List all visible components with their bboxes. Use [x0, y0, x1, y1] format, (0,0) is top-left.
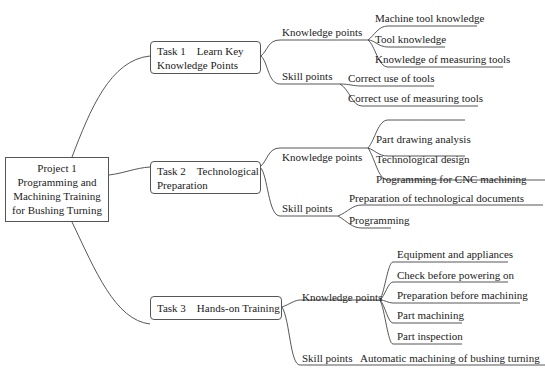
task-2-line-2: Preparation: [157, 178, 254, 192]
task-2-knowledge-point: Programming for CNC machining: [376, 173, 527, 186]
task-3-knowledge-point: Preparation before machining: [397, 289, 528, 302]
task-1-knowledge-point: Machine tool knowledge: [375, 12, 484, 25]
task-3-skill-point: Automatic machining of bushing turning: [360, 352, 540, 365]
task-1-node: Task 1 Learn Key Knowledge Points: [150, 41, 261, 74]
task-3-knowledge-point: Check before powering on: [397, 269, 514, 282]
root-line-1: Project 1: [6, 161, 108, 175]
task-1-line-1: Task 1 Learn Key: [157, 44, 254, 58]
task-3-skill-label: Skill points: [302, 352, 352, 365]
root-line-2: Programming and: [6, 175, 108, 189]
task-2-skill-point: Preparation of technological documents: [349, 192, 524, 205]
task-2-node: Task 2 Technological Preparation: [150, 161, 261, 194]
task-1-knowledge-point: Tool knowledge: [375, 33, 446, 46]
task-3-knowledge-point: Part inspection: [397, 330, 463, 343]
task-1-skill-point: Correct use of measuring tools: [348, 92, 483, 105]
task-2-knowledge-label: Knowledge points: [282, 151, 362, 164]
task-1-knowledge-label: Knowledge points: [282, 26, 362, 39]
root-node: Project 1 Programming and Machining Trai…: [5, 157, 109, 222]
task-2-knowledge-point: Part drawing analysis: [376, 133, 471, 146]
task-2-line-1: Task 2 Technological: [157, 164, 254, 178]
root-line-3: Machining Training: [6, 189, 108, 203]
task-3-knowledge-point: Part machining: [397, 309, 464, 322]
task-3-node: Task 3 Hands-on Training: [150, 296, 282, 320]
task-1-knowledge-point: Knowledge of measuring tools: [375, 53, 510, 66]
root-line-4: for Bushing Turning: [6, 203, 108, 217]
task-2-skill-label: Skill points: [282, 202, 332, 215]
task-2-skill-point: Programming: [349, 214, 410, 227]
task-1-skill-point: Correct use of tools: [348, 72, 434, 85]
task-3-knowledge-label: Knowledge points: [302, 291, 382, 304]
task-1-skill-label: Skill points: [282, 70, 332, 83]
task-2-knowledge-point: Technological design: [376, 153, 470, 166]
task-3-line-1: Task 3 Hands-on Training: [157, 301, 275, 315]
task-3-knowledge-point: Equipment and appliances: [397, 248, 513, 261]
task-1-line-2: Knowledge Points: [157, 58, 254, 72]
